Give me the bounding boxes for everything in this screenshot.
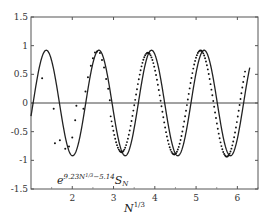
x-tick-label: 3	[111, 193, 117, 203]
y-tick-label: 0	[22, 98, 28, 108]
plot-area: 234561.510.50-0.5-1-1.5 e9.23N1/3−5.14SN…	[11, 12, 258, 215]
x-tick-label: 2	[69, 193, 75, 203]
data-points	[41, 50, 246, 158]
x-tick-label: 6	[234, 193, 240, 203]
y-tick-label: 1	[22, 41, 28, 51]
chart: 234561.510.50-0.5-1-1.5 e9.23N1/3−5.14SN…	[0, 0, 274, 218]
y-tick-label: -1	[19, 155, 28, 165]
y-tick-label: 0.5	[14, 69, 29, 79]
curve-annotation: e9.23N1/3−5.14SN	[57, 172, 129, 188]
y-tick-label: 1.5	[14, 12, 29, 22]
y-tick-label: -1.5	[11, 184, 29, 194]
x-tick-label: 5	[193, 193, 199, 203]
y-tick-label: -0.5	[11, 127, 29, 137]
axis-tick-labels: 234561.510.50-0.5-1-1.5	[11, 12, 241, 203]
x-axis-label: N1/3	[123, 201, 145, 215]
x-tick-label: 4	[152, 193, 158, 203]
